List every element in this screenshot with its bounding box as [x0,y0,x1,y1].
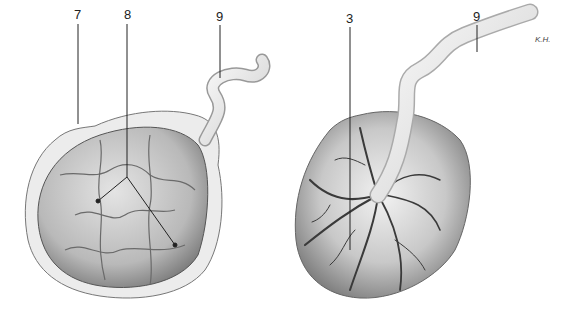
illustration-canvas: K.H. [0,0,572,319]
label-7: 7 [74,8,81,21]
artist-initials: K.H. [535,35,551,44]
label-3: 3 [346,12,353,25]
label-8: 8 [124,8,131,21]
label-9-right: 9 [473,10,480,23]
label-9-left: 9 [216,10,223,23]
fetal-surface: K.H. [295,12,550,298]
maternal-surface [25,60,264,298]
placenta-illustration: K.H. 7 8 9 3 9 [0,0,572,319]
